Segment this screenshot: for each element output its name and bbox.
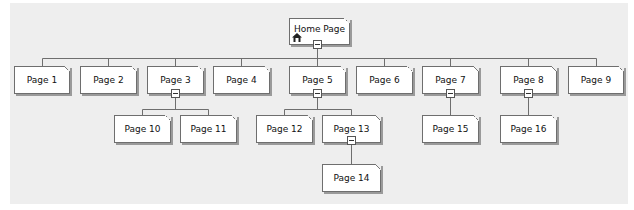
node-label: Page 6	[357, 75, 412, 85]
page-fold-corner	[307, 115, 313, 121]
page-fold-corner	[344, 18, 350, 24]
node-label: Page 12	[257, 124, 312, 134]
page-fold-corner	[165, 115, 171, 121]
node-page-9[interactable]: Page 9	[568, 66, 624, 94]
page-fold-corner	[131, 66, 137, 72]
node-label: Page 10	[115, 124, 170, 134]
node-label: Page 13	[323, 124, 380, 134]
node-label: Page 7	[423, 75, 478, 85]
node-page-2[interactable]: Page 2	[80, 66, 137, 94]
home-icon	[292, 33, 302, 42]
page-fold-corner	[473, 66, 479, 72]
node-page-12[interactable]: Page 12	[256, 115, 313, 143]
node-page-14[interactable]: Page 14	[322, 164, 381, 192]
node-page-15[interactable]: Page 15	[422, 115, 479, 143]
node-label: Page 8	[501, 75, 556, 85]
page-fold-corner	[231, 115, 237, 121]
node-label: Page 9	[569, 75, 623, 85]
page-fold-corner	[264, 66, 270, 72]
node-page-1[interactable]: Page 1	[14, 66, 70, 94]
node-page-6[interactable]: Page 6	[356, 66, 413, 94]
collapse-toggle-page-7[interactable]	[446, 89, 455, 98]
node-label: Page 3	[148, 75, 203, 85]
collapse-toggle-page-8[interactable]	[524, 89, 533, 98]
page-fold-corner	[551, 115, 557, 121]
page-fold-corner	[473, 115, 479, 121]
collapse-toggle-page-5[interactable]	[313, 89, 322, 98]
collapse-toggle-home[interactable]	[313, 40, 322, 49]
node-page-16[interactable]: Page 16	[500, 115, 557, 143]
node-label: Page 1	[15, 75, 69, 85]
node-label: Page 5	[290, 75, 345, 85]
page-fold-corner	[198, 66, 204, 72]
page-fold-corner	[64, 66, 70, 72]
node-label: Page 11	[181, 124, 236, 134]
collapse-toggle-page-3[interactable]	[171, 89, 180, 98]
node-label: Page 4	[214, 75, 269, 85]
node-page-4[interactable]: Page 4	[213, 66, 270, 94]
node-label: Page 14	[323, 173, 380, 183]
page-fold-corner	[407, 66, 413, 72]
page-fold-corner	[375, 164, 381, 170]
node-label: Page 16	[501, 124, 556, 134]
node-page-10[interactable]: Page 10	[114, 115, 171, 143]
node-label: Page 2	[81, 75, 136, 85]
page-fold-corner	[375, 115, 381, 121]
page-fold-corner	[618, 66, 624, 72]
page-fold-corner	[340, 66, 346, 72]
node-label: Page 15	[423, 124, 478, 134]
page-fold-corner	[551, 66, 557, 72]
node-page-11[interactable]: Page 11	[180, 115, 237, 143]
collapse-toggle-page-13[interactable]	[347, 136, 356, 145]
